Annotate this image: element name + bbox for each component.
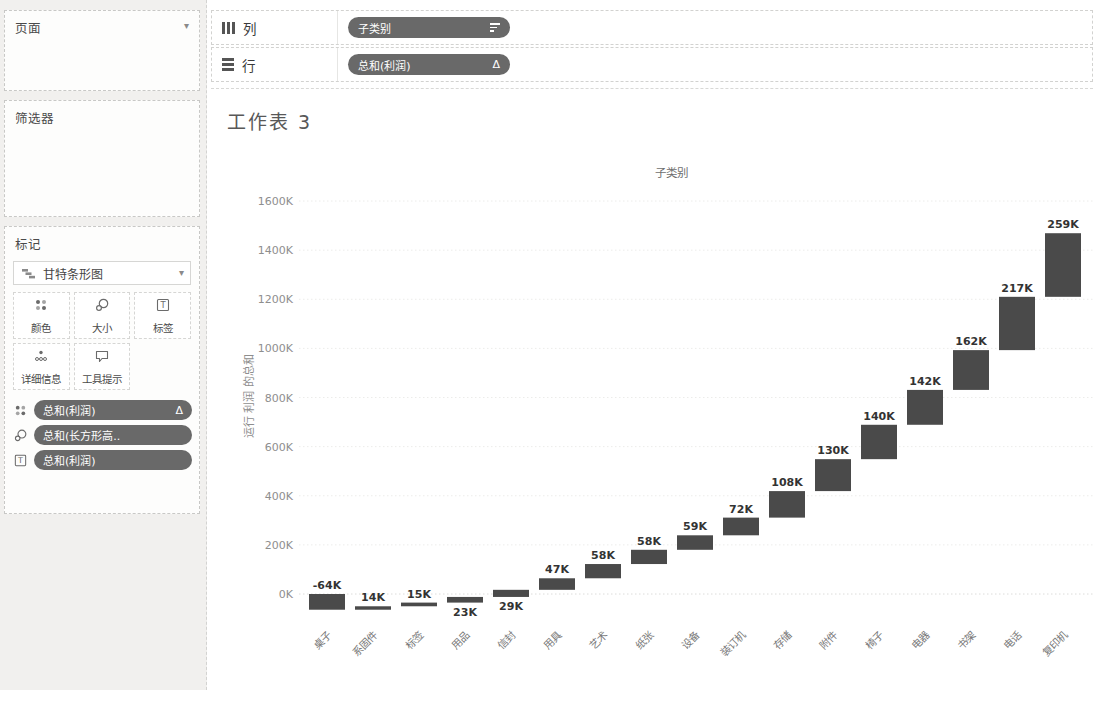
left-sidebar: 页面 ▾ 筛选器 标记 甘特条形图 ▾: [0, 0, 207, 690]
marks-pill-row: 总和(利润) Δ: [12, 400, 192, 420]
waterfall-bar[interactable]: [769, 491, 805, 518]
marks-pill[interactable]: 总和(利润): [34, 450, 192, 470]
x-category-label: 信封: [495, 628, 518, 651]
detail-button[interactable]: 详细信息: [13, 343, 70, 390]
columns-pill-label: 子类别: [358, 20, 391, 36]
y-tick-label: 800K: [265, 392, 294, 405]
label-icon: T: [155, 297, 171, 317]
y-axis-title: 运行 利润 的总和: [242, 354, 256, 438]
chevron-down-icon[interactable]: ▾: [179, 268, 184, 278]
svg-text:T: T: [159, 300, 166, 310]
x-category-label: 桌子: [311, 629, 334, 652]
x-category-label: 书架: [955, 628, 978, 651]
marks-pill-list: 总和(利润) Δ 总和(长方形高..: [12, 400, 192, 470]
rows-shelf: 行 总和(利润) Δ: [211, 47, 1093, 82]
marks-pill[interactable]: 总和(长方形高..: [34, 425, 192, 445]
marks-pill-row: 总和(长方形高..: [12, 425, 192, 445]
x-category-label: 纸张: [633, 628, 656, 651]
bar-value-label: 14K: [361, 591, 385, 604]
x-category-label: 电器: [909, 628, 932, 651]
marks-buttons: 颜色 大小 T 标签: [13, 292, 191, 390]
bar-value-label: 130K: [817, 444, 849, 457]
waterfall-bar[interactable]: [309, 594, 345, 610]
bar-value-label: 15K: [407, 588, 431, 601]
mark-type-label: 甘特条形图: [43, 265, 103, 282]
y-tick-label: 1600K: [258, 195, 294, 208]
marks-pill-label: 总和(长方形高..: [43, 427, 120, 443]
bar-value-label: 140K: [863, 410, 895, 423]
sort-descending-icon[interactable]: [490, 23, 500, 31]
chart-canvas[interactable]: 0K200K400K600K800K1000K1200K1400K1600K子类…: [241, 164, 1093, 707]
waterfall-bar[interactable]: [401, 603, 437, 607]
marks-pill-label: 总和(利润): [43, 402, 96, 418]
waterfall-bar[interactable]: [861, 425, 897, 459]
mark-type-dropdown[interactable]: 甘特条形图 ▾: [13, 261, 191, 285]
marks-pill-label: 总和(利润): [43, 452, 96, 468]
detail-button-label: 详细信息: [21, 371, 61, 386]
color-icon: [12, 402, 29, 419]
columns-pill[interactable]: 子类别: [348, 17, 510, 38]
tooltip-icon: [94, 348, 110, 368]
bar-value-label: -64K: [313, 579, 342, 592]
pages-shelf[interactable]: 页面 ▾: [4, 10, 200, 91]
label-button-label: 标签: [153, 320, 173, 335]
marks-card: 标记 甘特条形图 ▾ 颜色: [4, 226, 200, 514]
size-button[interactable]: 大小: [74, 292, 131, 339]
bar-value-label: 162K: [955, 335, 987, 348]
marks-pill[interactable]: 总和(利润) Δ: [34, 400, 192, 420]
bar-value-label: 58K: [591, 549, 615, 562]
waterfall-bar[interactable]: [1045, 233, 1081, 297]
column-field-header: 子类别: [655, 166, 688, 180]
chevron-down-icon[interactable]: ▾: [184, 21, 189, 31]
rows-shelf-label: 行: [212, 48, 338, 81]
y-tick-label: 1200K: [258, 293, 294, 306]
y-tick-label: 1000K: [258, 342, 294, 355]
x-category-label: 标签: [403, 628, 426, 651]
color-button-label: 颜色: [31, 320, 51, 335]
tooltip-button-label: 工具提示: [82, 371, 122, 386]
columns-shelf: 列 子类别: [211, 10, 1093, 45]
size-icon: [12, 427, 29, 444]
columns-shelf-label: 列: [212, 11, 338, 44]
color-button[interactable]: 颜色: [13, 292, 70, 339]
bar-value-label: 47K: [545, 563, 569, 576]
bar-value-label: 259K: [1047, 218, 1079, 231]
worksheet-area: 工作表 3 0K200K400K600K800K1000K1200K1400K1…: [211, 88, 1093, 707]
waterfall-bar[interactable]: [585, 564, 621, 578]
y-tick-label: 200K: [265, 539, 294, 552]
waterfall-bar[interactable]: [907, 390, 943, 425]
rows-shelf-text: 行: [242, 55, 255, 75]
delta-icon: Δ: [169, 404, 183, 417]
x-category-label: 用品: [449, 629, 472, 652]
waterfall-bar[interactable]: [723, 518, 759, 536]
waterfall-bar[interactable]: [999, 297, 1035, 350]
x-category-label: 附件: [817, 629, 840, 652]
filters-shelf[interactable]: 筛选器: [4, 100, 200, 217]
rows-pill[interactable]: 总和(利润) Δ: [348, 54, 510, 75]
tooltip-button[interactable]: 工具提示: [74, 343, 131, 390]
marks-card-title: 标记: [15, 234, 199, 253]
label-button[interactable]: T 标签: [134, 292, 191, 339]
waterfall-bar[interactable]: [447, 597, 483, 603]
waterfall-bar[interactable]: [355, 606, 391, 609]
waterfall-bar[interactable]: [539, 578, 575, 590]
delta-icon: Δ: [492, 58, 500, 71]
waterfall-bar[interactable]: [631, 550, 667, 564]
bar-value-label: 59K: [683, 520, 707, 533]
x-category-label: 椅子: [863, 629, 886, 652]
x-category-label: 存储: [771, 628, 794, 651]
x-category-label: 用具: [541, 628, 564, 651]
bar-value-label: 23K: [453, 606, 477, 619]
waterfall-bar[interactable]: [493, 590, 529, 597]
detail-icon: [33, 348, 49, 368]
columns-icon: [222, 22, 235, 34]
waterfall-bar[interactable]: [677, 535, 713, 549]
y-tick-label: 600K: [265, 441, 294, 454]
svg-text:T: T: [17, 456, 23, 465]
columns-shelf-text: 列: [243, 18, 256, 38]
waterfall-bar[interactable]: [815, 459, 851, 491]
bar-value-label: 108K: [771, 476, 803, 489]
y-tick-label: 1400K: [258, 244, 294, 257]
waterfall-bar[interactable]: [953, 350, 989, 390]
color-icon: [33, 297, 49, 317]
